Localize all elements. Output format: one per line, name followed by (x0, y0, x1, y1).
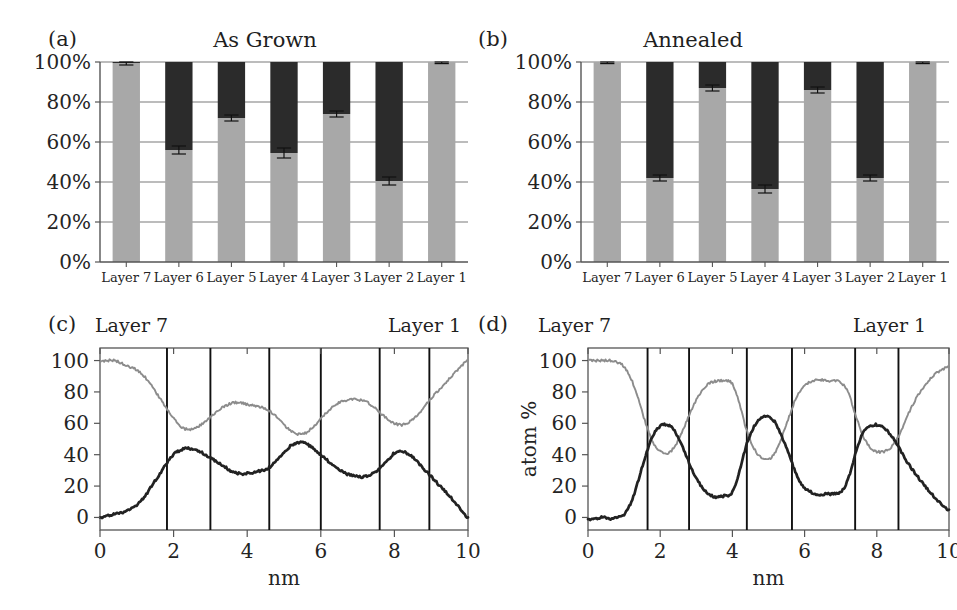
ytick-label: 80 (64, 380, 89, 404)
panel-d-plot: 0204060801000246810nmatom % (478, 300, 957, 610)
category-label: Layer 7 (582, 270, 632, 285)
category-label: Layer 4 (740, 270, 790, 285)
xtick-label: 10 (455, 539, 480, 563)
xaxis-title: nm (753, 566, 785, 590)
xtick-label: 8 (388, 539, 401, 563)
bar-segment-gray (218, 118, 245, 262)
bar-segment-gray (909, 62, 936, 262)
category-label: Layer 3 (312, 270, 362, 285)
panel-a: (a) As Grown Layer 7Layer 6Layer 5Layer … (0, 0, 478, 300)
xtick-label: 8 (870, 539, 883, 563)
bar-segment-gray (165, 150, 192, 262)
ytick-label: 20% (528, 210, 572, 234)
panel-d: (d) Layer 7 Layer 1 0204060801000246810n… (478, 300, 957, 610)
xtick-label: 2 (654, 539, 667, 563)
line-chart-group: 0204060801000246810nm (51, 348, 481, 590)
bar-segment-dark (699, 62, 726, 88)
ytick-label: 40% (528, 170, 572, 194)
ytick-label: 40 (64, 443, 89, 467)
bar-segment-gray (270, 153, 297, 262)
ytick-label: 80% (528, 90, 572, 114)
panel-c-plot: 0204060801000246810nm (0, 300, 478, 610)
line-chart-group: 0204060801000246810nmatom % (517, 348, 957, 590)
category-label: Layer 2 (845, 270, 895, 285)
xtick-label: 4 (726, 539, 739, 563)
bar-chart-group: Layer 7Layer 6Layer 5Layer 4Layer 3Layer… (34, 50, 468, 285)
category-label: Layer 5 (687, 270, 737, 285)
xtick-label: 4 (241, 539, 254, 563)
bar-segment-dark (646, 62, 673, 178)
ytick-label: 40% (47, 170, 91, 194)
panel-d-tag: (d) (478, 312, 508, 336)
bar-segment-dark (856, 62, 883, 178)
bar-segment-dark (323, 62, 350, 114)
ytick-label: 0 (564, 505, 577, 529)
figure-root: (a) As Grown Layer 7Layer 6Layer 5Layer … (0, 0, 957, 610)
ytick-label: 20 (64, 474, 89, 498)
xtick-label: 2 (167, 539, 180, 563)
category-label: Layer 6 (635, 270, 685, 285)
yaxis-title: atom % (517, 401, 541, 477)
bar-segment-dark (165, 62, 192, 150)
bar-chart-group: Layer 7Layer 6Layer 5Layer 4Layer 3Layer… (515, 50, 949, 285)
panel-b-tag: (b) (478, 27, 508, 51)
ytick-label: 20% (47, 210, 91, 234)
ytick-label: 100 (539, 349, 577, 373)
ytick-label: 0% (540, 250, 572, 274)
ytick-label: 100 (51, 349, 89, 373)
category-label: Layer 3 (793, 270, 843, 285)
ytick-label: 20 (552, 474, 577, 498)
ytick-label: 100% (34, 50, 91, 74)
category-label: Layer 4 (259, 270, 309, 285)
xtick-label: 10 (936, 539, 957, 563)
ytick-label: 0 (76, 505, 89, 529)
xtick-label: 6 (314, 539, 327, 563)
plot-background (100, 348, 468, 530)
ytick-label: 80 (552, 380, 577, 404)
ytick-label: 0% (59, 250, 91, 274)
bar-segment-gray (594, 62, 621, 262)
panel-c-tag: (c) (48, 312, 76, 336)
ytick-label: 60 (64, 411, 89, 435)
xtick-label: 0 (94, 539, 107, 563)
xtick-label: 0 (582, 539, 595, 563)
bar-segment-dark (375, 62, 402, 181)
category-label: Layer 6 (154, 270, 204, 285)
ytick-label: 60% (528, 130, 572, 154)
panel-a-tag: (a) (48, 27, 77, 51)
panel-d-left-label: Layer 7 (538, 314, 611, 336)
ytick-label: 60% (47, 130, 91, 154)
bar-segment-gray (856, 178, 883, 262)
bar-segment-dark (270, 62, 297, 153)
category-label: Layer 1 (417, 270, 467, 285)
bar-segment-dark (751, 62, 778, 189)
panel-d-right-label: Layer 1 (853, 314, 926, 336)
xtick-label: 6 (798, 539, 811, 563)
category-label: Layer 1 (898, 270, 948, 285)
bar-segment-gray (428, 62, 455, 262)
ytick-label: 60 (552, 411, 577, 435)
bar-segment-gray (699, 88, 726, 262)
bar-segment-gray (375, 181, 402, 262)
ytick-label: 40 (552, 443, 577, 467)
xaxis-title: nm (268, 566, 300, 590)
bar-segment-dark (804, 62, 831, 90)
panel-b: (b) Annealed Layer 7Layer 6Layer 5Layer … (478, 0, 957, 300)
bar-segment-gray (323, 114, 350, 262)
bar-segment-gray (751, 189, 778, 262)
bar-segment-gray (646, 178, 673, 262)
panel-a-title: As Grown (140, 28, 390, 52)
panel-c-left-label: Layer 7 (95, 314, 168, 336)
ytick-label: 80% (47, 90, 91, 114)
panel-c-right-label: Layer 1 (388, 314, 461, 336)
category-label: Layer 2 (364, 270, 414, 285)
bar-segment-gray (804, 90, 831, 262)
panel-c: (c) Layer 7 Layer 1 0204060801000246810n… (0, 300, 478, 610)
bar-segment-gray (113, 63, 140, 262)
panel-b-title: Annealed (568, 28, 818, 52)
category-label: Layer 7 (101, 270, 151, 285)
category-label: Layer 5 (206, 270, 256, 285)
ytick-label: 100% (515, 50, 572, 74)
bar-segment-dark (218, 62, 245, 118)
